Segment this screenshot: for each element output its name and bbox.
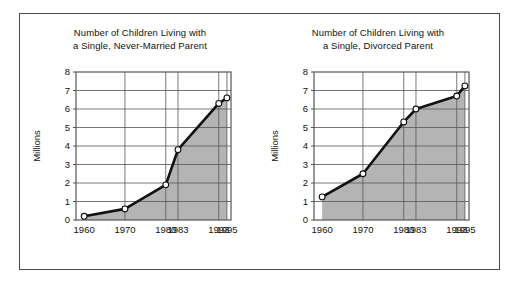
y-tick-label: 0 [303, 214, 308, 225]
data-point-marker [360, 171, 366, 177]
data-point-marker [454, 93, 460, 99]
chart-title-line2: a Single, Divorced Parent [258, 39, 498, 52]
y-tick-label: 5 [303, 122, 308, 133]
data-point-marker [319, 194, 325, 200]
figure-frame: Number of Children Living with a Single,… [19, 13, 500, 270]
x-tick-label: 1983 [405, 224, 426, 235]
x-tick-label: 1970 [114, 224, 135, 235]
y-tick-label: 3 [303, 159, 308, 170]
y-tick-label: 0 [65, 214, 70, 225]
y-tick-label: 8 [65, 66, 70, 77]
data-point-marker [216, 101, 222, 107]
data-point-marker [401, 119, 407, 125]
chart-title-never-married: Number of Children Living with a Single,… [20, 26, 260, 52]
area-fill [322, 86, 465, 220]
data-point-marker [224, 95, 230, 101]
data-point-marker [462, 83, 468, 89]
x-tick-label: 1995 [454, 224, 475, 235]
y-tick-label: 6 [65, 103, 70, 114]
y-tick-label: 5 [65, 122, 70, 133]
chart-plot-never-married: 012345678196019701980198319931995Million… [20, 54, 260, 269]
chart-panel-never-married: Number of Children Living with a Single,… [20, 14, 260, 271]
x-tick-label: 1970 [352, 224, 373, 235]
y-tick-label: 7 [65, 85, 70, 96]
y-tick-label: 4 [303, 140, 308, 151]
figure-page: Number of Children Living with a Single,… [0, 0, 521, 285]
y-tick-label: 4 [65, 140, 70, 151]
chart-title-line1: Number of Children Living with [312, 27, 444, 38]
chart-panel-divorced: Number of Children Living with a Single,… [258, 14, 498, 271]
x-tick-label: 1960 [312, 224, 333, 235]
data-point-marker [122, 206, 128, 212]
x-tick-label: 1960 [74, 224, 95, 235]
data-point-marker [175, 147, 181, 153]
y-axis-title: Millions [31, 130, 42, 162]
y-tick-label: 7 [303, 85, 308, 96]
y-tick-label: 1 [65, 196, 70, 207]
data-point-marker [413, 106, 419, 112]
y-tick-label: 2 [303, 177, 308, 188]
data-point-marker [163, 182, 169, 188]
y-tick-label: 3 [65, 159, 70, 170]
chart-title-line1: Number of Children Living with [74, 27, 206, 38]
y-tick-label: 1 [303, 196, 308, 207]
x-tick-label: 1995 [216, 224, 237, 235]
y-tick-label: 8 [303, 66, 308, 77]
data-point-marker [81, 213, 87, 219]
chart-title-divorced: Number of Children Living with a Single,… [258, 26, 498, 52]
y-tick-label: 2 [65, 177, 70, 188]
chart-title-line2: a Single, Never-Married Parent [20, 39, 260, 52]
x-tick-label: 1983 [167, 224, 188, 235]
chart-plot-divorced: 012345678196019701980198319931995Million… [258, 54, 498, 269]
y-axis-title: Millions [269, 130, 280, 162]
y-tick-label: 6 [303, 103, 308, 114]
